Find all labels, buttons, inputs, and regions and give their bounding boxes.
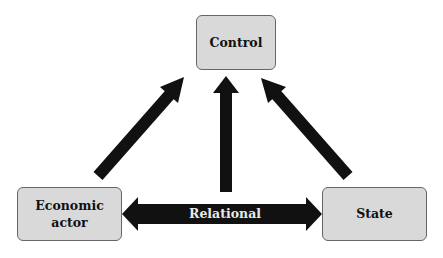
relational-label: Relational — [170, 206, 280, 221]
arrow-relational-to-control — [213, 76, 239, 192]
node-economic-actor-label-line1: Economic — [35, 197, 104, 215]
arrow-state-to-control — [261, 78, 348, 176]
node-state-label: State — [356, 205, 393, 223]
node-economic-actor: Economic actor — [17, 187, 122, 241]
node-state: State — [322, 187, 427, 241]
arrow-economic-to-control — [98, 77, 184, 176]
node-economic-actor-label-line2: actor — [35, 214, 104, 232]
node-control-label: Control — [210, 34, 263, 52]
node-control: Control — [196, 15, 276, 70]
